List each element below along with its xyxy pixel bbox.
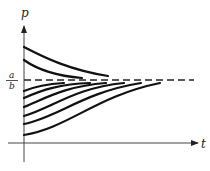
lower-curve-5 xyxy=(24,83,141,124)
diagram-canvas: p t a b xyxy=(0,0,210,171)
y-axis-label: p xyxy=(21,6,29,20)
x-axis-label: t xyxy=(201,137,206,151)
lower-curve-2 xyxy=(24,83,90,98)
asymptote-label-denominator: b xyxy=(9,81,15,91)
asymptote-label-numerator: a xyxy=(9,70,14,80)
upper-curve-1 xyxy=(24,47,108,76)
